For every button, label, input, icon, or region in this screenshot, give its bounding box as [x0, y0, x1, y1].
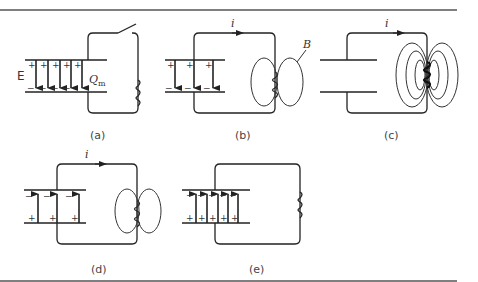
svg-text:+: +	[63, 60, 71, 70]
wire	[132, 33, 138, 78]
svg-text:+: +	[167, 60, 175, 70]
svg-text:−: −	[25, 191, 33, 201]
svg-text:+: +	[205, 60, 213, 70]
svg-text:+: +	[49, 213, 57, 223]
panel-c: i (c)	[320, 17, 458, 142]
e-field-label: E	[17, 69, 25, 83]
svg-text:−: −	[65, 191, 73, 201]
svg-text:+: +	[52, 60, 60, 70]
svg-text:−: −	[39, 83, 47, 93]
charge-label: Qm	[89, 73, 106, 88]
svg-text:−: −	[208, 190, 216, 200]
switch	[118, 24, 136, 33]
svg-text:+: +	[28, 60, 36, 70]
svg-text:+: +	[231, 213, 239, 223]
b-leader	[297, 50, 306, 62]
panel-a: +++++ −−−− E Qm (a)	[17, 24, 140, 142]
caption-b: (b)	[235, 129, 251, 142]
wire	[88, 33, 118, 60]
caption-c: (c)	[384, 129, 399, 142]
caption-e: (e)	[249, 263, 264, 276]
panel-d: i −−− +++ (d)	[24, 148, 161, 276]
svg-text:−: −	[27, 83, 35, 93]
svg-text:−: −	[197, 190, 205, 200]
panel-b: i B +++ −−− (b)	[165, 17, 311, 142]
svg-text:+: +	[198, 213, 206, 223]
svg-text:+: +	[220, 213, 228, 223]
svg-text:+: +	[186, 213, 194, 223]
svg-text:+: +	[74, 60, 82, 70]
svg-text:−: −	[63, 83, 71, 93]
b-field-label: B	[302, 38, 311, 51]
current-label: i	[231, 17, 235, 30]
svg-text:−: −	[165, 83, 173, 93]
svg-text:−: −	[219, 190, 227, 200]
wire-loop	[194, 33, 275, 113]
svg-text:−: −	[229, 190, 237, 200]
caption-d: (d)	[91, 263, 107, 276]
b-field-loop	[251, 58, 277, 106]
svg-text:−: −	[203, 83, 211, 93]
panel-e: −−−−− +++++ (e)	[182, 164, 302, 276]
b-field-loop	[277, 58, 303, 106]
svg-text:+: +	[28, 213, 36, 223]
current-label: i	[385, 17, 389, 30]
caption-a: (a)	[90, 129, 105, 142]
b-field-loop	[115, 189, 139, 233]
current-label: i	[85, 148, 89, 161]
lc-oscillation-diagram: +++++ −−−− E Qm (a) i B +++ −−− (b) i	[0, 0, 478, 282]
wire-loop	[57, 164, 137, 244]
svg-text:+: +	[186, 60, 194, 70]
b-field-loop	[137, 189, 161, 233]
svg-text:−: −	[184, 83, 192, 93]
svg-text:−: −	[51, 83, 59, 93]
svg-text:−: −	[43, 191, 51, 201]
svg-text:+: +	[71, 213, 79, 223]
svg-text:−: −	[186, 190, 194, 200]
svg-text:+: +	[209, 213, 217, 223]
svg-text:+: +	[40, 60, 48, 70]
